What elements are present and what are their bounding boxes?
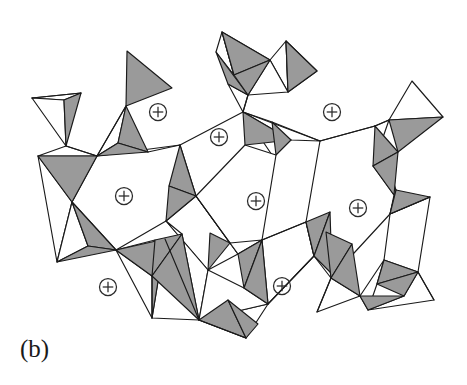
polyhedron-face-shaded (64, 93, 81, 146)
polyhedron-face-light (38, 146, 97, 156)
polyhedron-face-light (32, 98, 66, 146)
polyhedron-face-shaded (126, 51, 172, 106)
panel-label: (b) (20, 336, 49, 361)
polyhedron-face-shaded (286, 41, 317, 92)
cation-site-plus-circle-icon (324, 104, 341, 121)
polyhedron-face-shaded (389, 117, 443, 152)
figure-panel-b: (b) (0, 0, 467, 385)
polyhedron-face-light (389, 81, 443, 120)
polyhedral-structure-diagram (0, 0, 467, 385)
cation-site-plus-circle-icon (150, 104, 167, 121)
cation-site-plus-circle-icon (100, 279, 117, 296)
